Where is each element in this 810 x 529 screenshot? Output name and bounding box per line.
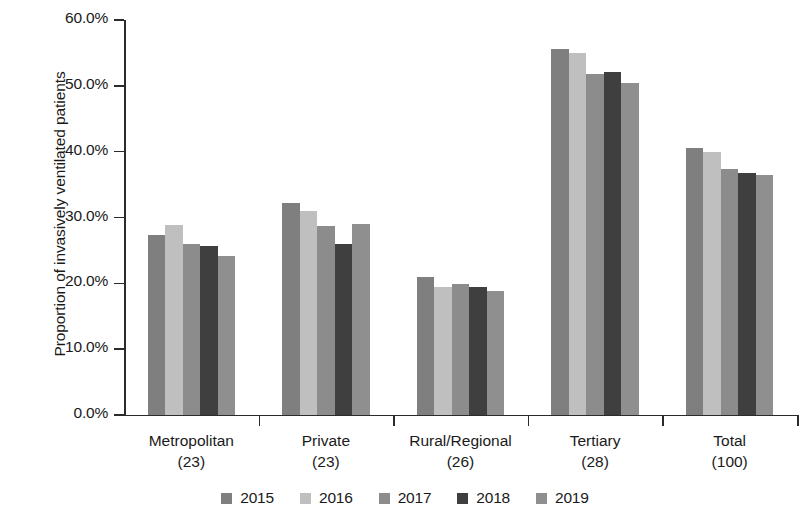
y-axis-tick-label: 30.0% xyxy=(65,207,108,225)
bar-group xyxy=(148,20,236,415)
bar xyxy=(300,211,318,415)
x-axis-category-count: (23) xyxy=(124,451,259,472)
x-axis-category-name: Private xyxy=(259,430,394,451)
x-axis-category-name: Total xyxy=(662,430,797,451)
x-axis-tick-mark xyxy=(528,415,530,426)
bar-group xyxy=(551,20,639,415)
legend-label: 2015 xyxy=(240,489,274,507)
x-axis-category-count: (28) xyxy=(528,451,663,472)
y-axis-tick-label: 50.0% xyxy=(65,75,108,93)
bar-chart: Proportion of invasively ventilated pati… xyxy=(0,0,810,529)
bar xyxy=(621,83,639,415)
x-axis-category-name: Metropolitan xyxy=(124,430,259,451)
bar-group xyxy=(686,20,774,415)
x-axis-tick-mark xyxy=(797,415,799,426)
bar-group xyxy=(282,20,370,415)
y-axis-tick-mark xyxy=(114,151,124,153)
bar xyxy=(183,244,201,415)
bar-group xyxy=(417,20,505,415)
bar xyxy=(282,203,300,415)
legend-swatch-icon xyxy=(379,493,390,504)
legend-item[interactable]: 2016 xyxy=(300,489,353,507)
legend-label: 2019 xyxy=(555,489,589,507)
x-axis-category-count: (23) xyxy=(259,451,394,472)
legend-swatch-icon xyxy=(457,493,468,504)
bar xyxy=(487,291,505,415)
x-axis-tick-mark xyxy=(259,415,261,426)
bar xyxy=(452,284,470,415)
bar xyxy=(165,225,183,415)
legend-swatch-icon xyxy=(221,493,232,504)
y-axis-tick-mark xyxy=(114,85,124,87)
bar xyxy=(469,287,487,415)
bar xyxy=(417,277,435,415)
bar xyxy=(703,152,721,415)
bars-layer xyxy=(124,20,797,415)
x-axis-category-count: (100) xyxy=(662,451,797,472)
bar xyxy=(604,72,622,415)
x-axis-group-label: Metropolitan(23) xyxy=(124,430,259,472)
y-axis-tick-mark xyxy=(114,414,124,416)
bar xyxy=(686,148,704,415)
x-axis-tick-mark xyxy=(662,415,664,426)
y-axis-tick-label: 20.0% xyxy=(65,272,108,290)
legend-label: 2016 xyxy=(319,489,353,507)
x-axis-group-label: Tertiary(28) xyxy=(528,430,663,472)
bar xyxy=(335,244,353,415)
x-axis-group-label: Private(23) xyxy=(259,430,394,472)
y-axis-tick-mark xyxy=(114,348,124,350)
bar xyxy=(317,226,335,415)
y-axis-tick-mark xyxy=(114,283,124,285)
bar xyxy=(551,49,569,415)
x-axis-category-name: Rural/Regional xyxy=(393,430,528,451)
x-axis-category-name: Tertiary xyxy=(528,430,663,451)
bar xyxy=(569,53,587,415)
y-axis-tick-label: 10.0% xyxy=(65,338,108,356)
x-axis-group-label: Total(100) xyxy=(662,430,797,472)
legend-label: 2017 xyxy=(398,489,432,507)
y-axis-tick-mark xyxy=(114,217,124,219)
x-axis-category-count: (26) xyxy=(393,451,528,472)
legend-item[interactable]: 2015 xyxy=(221,489,274,507)
legend-swatch-icon xyxy=(536,493,547,504)
chart-legend: 20152016201720182019 xyxy=(0,489,810,507)
bar xyxy=(434,287,452,415)
bar xyxy=(352,224,370,415)
bar xyxy=(218,256,236,415)
x-axis-tick-mark xyxy=(393,415,395,426)
y-axis-tick-label: 0.0% xyxy=(73,404,108,422)
bar xyxy=(586,74,604,415)
legend-swatch-icon xyxy=(300,493,311,504)
bar xyxy=(756,175,774,415)
bar xyxy=(200,246,218,415)
y-axis-tick-mark xyxy=(114,19,124,21)
bar xyxy=(148,235,166,415)
legend-item[interactable]: 2019 xyxy=(536,489,589,507)
bar xyxy=(721,169,739,415)
x-axis-group-label: Rural/Regional(26) xyxy=(393,430,528,472)
legend-label: 2018 xyxy=(476,489,510,507)
y-axis-tick-label: 60.0% xyxy=(65,9,108,27)
legend-item[interactable]: 2017 xyxy=(379,489,432,507)
legend-item[interactable]: 2018 xyxy=(457,489,510,507)
bar xyxy=(738,173,756,415)
y-axis-tick-label: 40.0% xyxy=(65,141,108,159)
